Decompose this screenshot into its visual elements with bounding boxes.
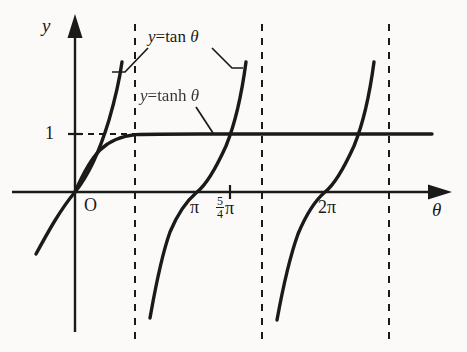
y-axis-label: y xyxy=(42,16,50,35)
tan-leader-right xyxy=(212,48,243,68)
fraction-five-over-four: 5 4 xyxy=(216,195,224,220)
y-axis xyxy=(68,14,83,332)
origin-label: O xyxy=(84,196,97,214)
tan-tanh-graph-figure: y θ 1 O π 5 4 π 2π y=tan θ y=tanh θ xyxy=(0,0,467,352)
x-axis-label: θ xyxy=(432,200,441,219)
tanh-label-leader-line xyxy=(196,107,213,133)
x-tick-label-five-fourths-pi: 5 4 π xyxy=(216,195,234,220)
fraction-denominator: 4 xyxy=(216,207,224,220)
tan-label-equals: = xyxy=(156,27,166,46)
tanh-curve xyxy=(75,134,432,192)
plot-area xyxy=(0,0,467,352)
tan-label-leader-lines xyxy=(112,48,243,72)
tan-leader-left xyxy=(112,48,148,72)
tan-label-lhs: y xyxy=(148,27,156,46)
tanh-label-lhs: y xyxy=(140,86,148,105)
tan-curve-label: y=tan θ xyxy=(148,28,199,45)
tanh-label-variable: θ xyxy=(191,86,199,105)
tanh-curve-label: y=tanh θ xyxy=(140,87,199,104)
fraction-pi-symbol: π xyxy=(225,199,234,217)
y-axis-arrowhead xyxy=(68,14,83,38)
tan-curve-branch-1 xyxy=(36,62,122,254)
x-axis-arrowhead xyxy=(428,185,452,200)
tan-label-variable: θ xyxy=(190,27,198,46)
tanh-label-equals: = xyxy=(148,86,158,105)
asymptote-lines xyxy=(135,24,389,341)
y-tick-label-one: 1 xyxy=(45,124,54,142)
x-tick-label-pi: π xyxy=(190,198,199,216)
tan-label-function: tan xyxy=(165,27,186,46)
x-tick-label-two-pi: 2π xyxy=(318,198,336,216)
tanh-label-function: tanh xyxy=(157,86,186,105)
fraction-numerator: 5 xyxy=(216,195,224,207)
